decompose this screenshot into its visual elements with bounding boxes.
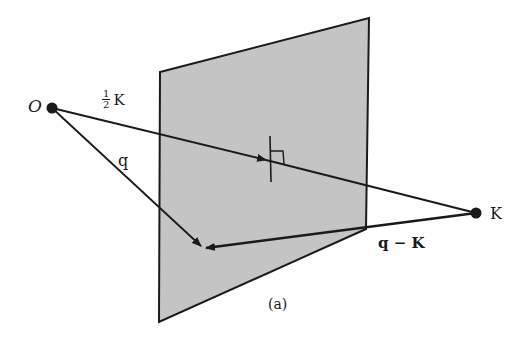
diagram-svg — [0, 0, 532, 356]
perpendicular-line — [270, 136, 271, 182]
q-label: q — [118, 151, 128, 170]
figure-caption: (a) — [268, 296, 287, 312]
origin-label: O — [28, 96, 42, 116]
k-point-label: K — [490, 204, 502, 223]
half-fraction: 1 2 — [102, 89, 110, 110]
half-k-symbol: K — [113, 91, 124, 109]
plane — [159, 18, 369, 322]
origin-point — [47, 103, 58, 114]
diagram-canvas: O 1 2 K q q − K K (a) — [0, 0, 532, 356]
half-k-label: 1 2 K — [102, 89, 125, 110]
k-point — [471, 208, 482, 219]
q-minus-k-label: q − K — [378, 234, 425, 252]
fraction-denominator: 2 — [103, 100, 109, 110]
